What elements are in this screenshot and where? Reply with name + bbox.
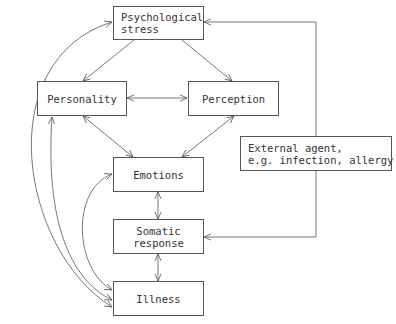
node-label: response xyxy=(133,237,184,249)
node-label: e.g. infection, allergy xyxy=(248,154,393,166)
node-label: Emotions xyxy=(133,169,184,181)
edge-personality-emotions xyxy=(83,116,133,157)
node-label: Personality xyxy=(47,93,117,105)
edge-perception-emotions xyxy=(182,116,234,157)
node-label: stress xyxy=(121,23,159,35)
node-label: Somatic xyxy=(136,225,180,237)
edge-stress-perception xyxy=(182,40,232,81)
diagram-canvas: Psychological stress Personality Percept… xyxy=(0,0,396,324)
edge-external-somatic xyxy=(204,170,316,237)
edge-stress-personality xyxy=(83,40,134,81)
node-illness: Illness xyxy=(113,281,204,316)
node-label: External agent, xyxy=(248,142,343,154)
node-emotions: Emotions xyxy=(113,157,204,192)
edge-illness-emotions xyxy=(82,174,112,290)
edge-illness-stress xyxy=(31,22,112,307)
node-somatic-response: Somatic response xyxy=(113,219,204,254)
node-perception: Perception xyxy=(188,81,279,116)
node-psychological-stress: Psychological stress xyxy=(113,6,204,40)
node-personality: Personality xyxy=(37,81,127,116)
node-label: Psychological xyxy=(121,11,203,23)
node-label: Perception xyxy=(202,93,265,105)
node-external-agent: External agent, e.g. infection, allergy xyxy=(240,136,392,171)
node-label: Illness xyxy=(136,293,180,305)
edge-illness-personality xyxy=(51,117,112,300)
edge-external-stress xyxy=(204,22,316,136)
